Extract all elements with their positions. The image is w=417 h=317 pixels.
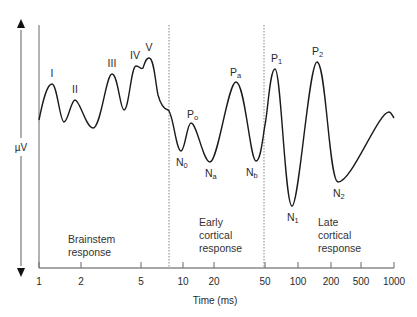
peak-label-III: III	[108, 57, 117, 69]
peak-label-P2: P2	[312, 45, 323, 59]
peak-label-Po: Po	[187, 108, 198, 122]
peak-label-Nb: Nb	[246, 166, 258, 180]
tick-label: 1000	[383, 276, 406, 287]
waveform-curve	[39, 58, 394, 206]
tick-label: 50	[259, 276, 271, 287]
tick-label: 200	[323, 276, 340, 287]
tick-label: 1	[36, 276, 42, 287]
peak-label-IV: IV	[130, 49, 140, 61]
peak-label-P1: P1	[271, 52, 282, 66]
region-label-brainstem: Brainstem response	[68, 233, 118, 258]
peak-label-N1: N1	[287, 211, 299, 225]
peak-label-Na: Na	[205, 167, 218, 181]
evoked-potential-chart: µV 1 2 5 10 20 50 100 200 500 1000 Time …	[0, 0, 417, 317]
arrow-up-icon	[17, 19, 25, 28]
region-label-early-cortical: Early cortical response	[199, 216, 242, 254]
peak-label-V: V	[145, 41, 152, 53]
region-label-late-cortical: Late cortical response	[318, 216, 361, 254]
peak-label-II: II	[72, 83, 78, 95]
y-axis-label: µV	[15, 142, 28, 153]
x-ticks	[39, 262, 394, 268]
x-tick-labels: 1 2 5 10 20 50 100 200 500 1000	[36, 276, 405, 287]
tick-label: 5	[138, 276, 144, 287]
arrow-down-icon	[17, 268, 25, 277]
peak-label-N2: N2	[333, 187, 345, 201]
tick-label: 500	[353, 276, 370, 287]
tick-label: 10	[177, 276, 189, 287]
tick-label: 2	[78, 276, 84, 287]
peak-label-I: I	[51, 67, 54, 79]
peak-label-N0: N0	[176, 156, 188, 170]
tick-label: 100	[290, 276, 307, 287]
tick-label: 20	[208, 276, 220, 287]
x-axis-title: Time (ms)	[193, 295, 238, 306]
peak-label-Pa: Pa	[230, 66, 242, 80]
